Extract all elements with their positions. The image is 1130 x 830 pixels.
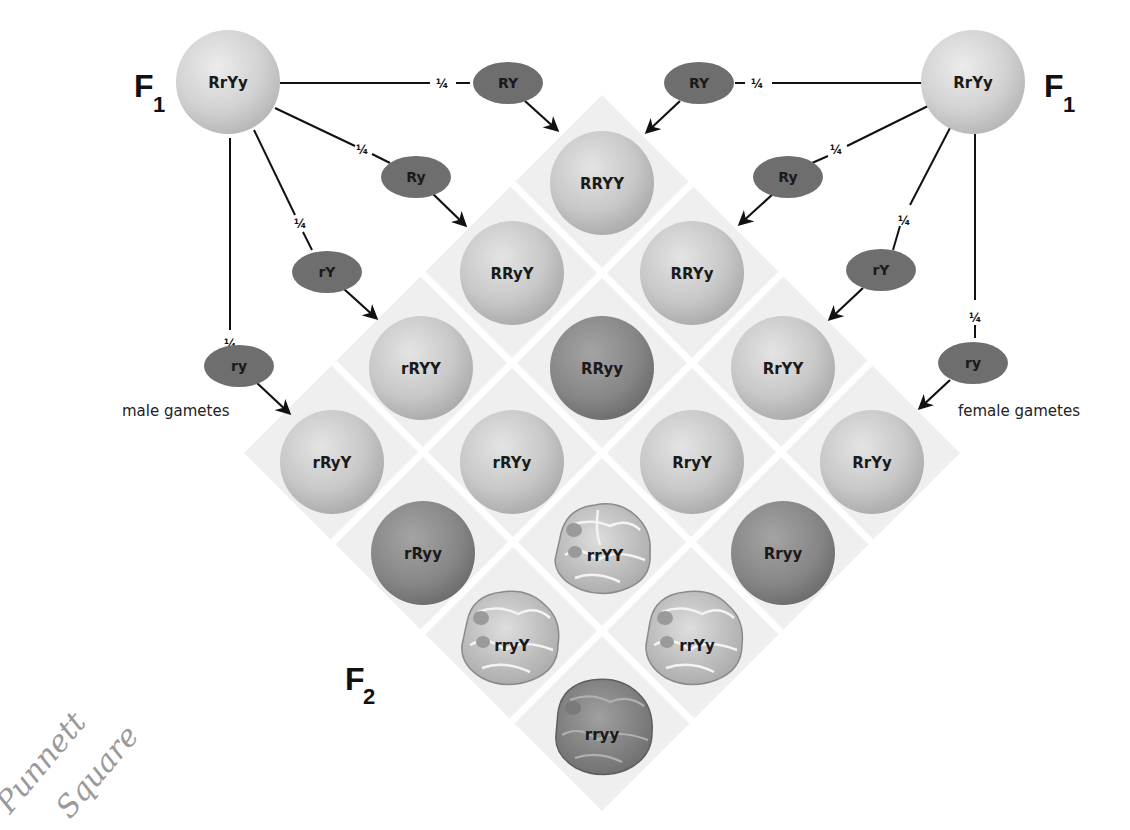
svg-text:2: 2 [363,684,375,709]
parent-female: RrYy [921,30,1025,134]
gamete-female-rY: rY [846,249,916,291]
svg-text:RY: RY [498,75,519,91]
pea-RrYY: RrYY [731,316,835,420]
svg-text:RRyy: RRyy [581,360,623,378]
svg-text:rRyY: rRyY [313,454,353,472]
svg-text:rRyy: rRyy [404,545,442,563]
pea-RRyy: RRyy [550,316,654,420]
svg-text:RrYY: RrYY [763,360,805,378]
label-f1-right: F 1 [1044,68,1075,117]
svg-text:rryy: rryy [585,726,620,744]
female-gametes-label: female gametes [958,402,1080,420]
svg-text:F: F [345,661,365,697]
pea-rryY-wrinkled: rryY [462,591,559,684]
parent-male-genotype: RrYy [208,74,248,92]
pea-rryy-wrinkled: rryy [556,679,652,774]
fraction-male-rY: ¼ [294,217,306,231]
svg-text:rY: rY [872,262,890,278]
label-f1-left: F 1 [134,68,165,117]
svg-text:F: F [1044,68,1064,104]
svg-text:RrYy: RrYy [852,454,892,472]
pea-rRYY: rRYY [369,316,473,420]
svg-text:RryY: RryY [672,454,713,472]
gamete-male-rY: rY [292,251,362,293]
gamete-male-RY: RY [473,62,543,104]
punnett-diagram: ¼ ¼ ¼ ¼ ¼ ¼ ¼ ¼ RrYy RrYy F 1 F 1 F 2 RY [0,0,1130,830]
svg-text:rrYY: rrYY [587,547,625,565]
pea-rRyy: rRyy [371,501,475,605]
pea-Rryy: Rryy [731,501,835,605]
pea-RryY: RryY [640,410,744,514]
pea-RRYY: RRYY [550,131,654,235]
parent-female-genotype: RrYy [953,74,993,92]
svg-text:F: F [134,68,154,104]
svg-text:Ry: Ry [778,169,797,185]
fraction-male-RY: ¼ [436,77,448,91]
fraction-female-ry: ¼ [969,311,981,325]
pea-RRYy: RRYy [640,221,744,325]
parent-male: RrYy [176,30,280,134]
pea-rrYy-wrinkled: rrYy [646,591,742,684]
gamete-male-Ry: Ry [381,156,451,198]
svg-text:1: 1 [153,92,165,117]
svg-text:ry: ry [965,355,981,371]
fraction-male-Ry: ¼ [356,143,368,157]
handwritten-annotation: Punnett Square [0,704,145,824]
gamete-male-ry: ry [204,345,274,387]
fraction-female-Ry: ¼ [830,143,842,157]
svg-text:Rryy: Rryy [764,545,803,563]
label-f2: F 2 [345,661,375,709]
svg-text:ry: ry [231,358,247,374]
pea-RRyY: RRyY [460,221,564,325]
svg-text:rRYy: rRYy [493,454,532,472]
svg-text:rrYy: rrYy [679,637,715,655]
gamete-female-Ry: Ry [753,156,823,198]
svg-text:RRyY: RRyY [490,265,534,283]
svg-text:1: 1 [1063,92,1075,117]
svg-text:RRYY: RRYY [580,175,625,193]
male-gametes-label: male gametes [122,402,230,420]
fraction-female-rY: ¼ [898,214,910,228]
fraction-female-RY: ¼ [751,77,763,91]
gamete-female-RY: RY [664,62,734,104]
pea-RrYy: RrYy [820,410,924,514]
pea-rRyY: rRyY [280,410,384,514]
svg-text:RY: RY [689,75,710,91]
svg-text:Ry: Ry [406,169,425,185]
svg-text:RRYy: RRYy [671,265,714,283]
pea-rrYY-wrinkled: rrYY [555,504,650,594]
pea-rRYy: rRYy [460,410,564,514]
svg-text:rRYY: rRYY [401,360,442,378]
gamete-female-ry: ry [938,342,1008,384]
svg-text:rryY: rryY [494,637,531,655]
svg-text:rY: rY [318,264,336,280]
